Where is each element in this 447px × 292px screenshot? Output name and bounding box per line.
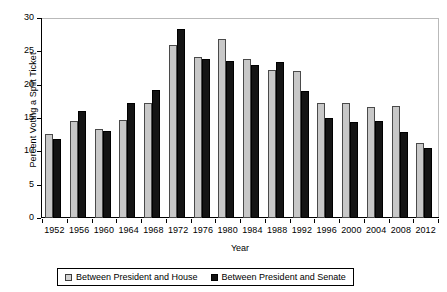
bar-2012-senate <box>424 148 432 218</box>
bar-group-2000 <box>339 18 364 218</box>
x-tick-mark <box>116 219 117 223</box>
bar-group-1980 <box>215 18 240 218</box>
x-tick-mark <box>413 219 414 223</box>
y-tick-mark <box>37 151 41 152</box>
bar-2004-senate <box>375 121 383 218</box>
bar-1956-senate <box>78 111 86 218</box>
bar-group-1964 <box>116 18 141 218</box>
x-tick-mark <box>67 219 68 223</box>
legend-item-senate: Between President and Senate <box>211 272 346 282</box>
x-tick-mark <box>240 219 241 223</box>
x-tick-mark <box>339 219 340 223</box>
bar-2004-house <box>367 107 375 218</box>
y-tick-mark <box>37 118 41 119</box>
x-axis-title: Year <box>41 243 439 253</box>
bar-1988-house <box>268 70 276 218</box>
bar-group-1992 <box>290 18 315 218</box>
y-tick-label: 0 <box>29 212 34 222</box>
bar-group-1976 <box>191 18 216 218</box>
x-tick-mark <box>92 219 93 223</box>
bar-1956-house <box>70 121 78 218</box>
bar-1992-house <box>293 71 301 218</box>
x-tick-mark <box>215 219 216 223</box>
bar-group-1972 <box>166 18 191 218</box>
bar-1980-senate <box>226 61 234 218</box>
y-tick-label: 10 <box>24 145 34 155</box>
x-tick-mark <box>290 219 291 223</box>
y-tick-mark <box>37 185 41 186</box>
legend-label: Between President and Senate <box>222 272 346 282</box>
bar-group-2012 <box>413 18 438 218</box>
bar-group-2008 <box>389 18 414 218</box>
y-tick-label: 15 <box>24 112 34 122</box>
x-tick-mark <box>42 219 43 223</box>
bars-layer <box>42 18 438 218</box>
bar-group-1968 <box>141 18 166 218</box>
bar-1964-house <box>119 120 127 218</box>
chart-legend: Between President and HouseBetween Presi… <box>57 268 354 286</box>
bar-2000-senate <box>350 122 358 218</box>
bar-1952-senate <box>53 139 61 218</box>
y-tick-mark <box>37 18 41 19</box>
x-tick-mark <box>389 219 390 223</box>
bar-group-1988 <box>265 18 290 218</box>
bar-1988-senate <box>276 62 284 218</box>
x-tick-mark <box>141 219 142 223</box>
bar-group-1952 <box>42 18 67 218</box>
y-tick-label: 20 <box>24 79 34 89</box>
x-tick-mark <box>314 219 315 223</box>
bar-1960-senate <box>103 131 111 218</box>
bar-1980-house <box>218 39 226 218</box>
legend-swatch-icon <box>65 274 72 281</box>
bar-1968-senate <box>152 90 160 218</box>
x-tick-mark <box>438 219 439 223</box>
bar-1996-senate <box>325 118 333 218</box>
legend-label: Between President and House <box>76 272 198 282</box>
y-tick-label: 30 <box>24 12 34 22</box>
bar-group-1956 <box>67 18 92 218</box>
legend-swatch-icon <box>211 274 218 281</box>
bar-1976-senate <box>202 59 210 218</box>
bar-1984-house <box>243 59 251 218</box>
bar-1996-house <box>317 103 325 218</box>
bar-2012-house <box>416 143 424 218</box>
bar-1992-senate <box>301 91 309 218</box>
bar-1972-house <box>169 45 177 218</box>
y-tick-label: 25 <box>24 45 34 55</box>
bar-1968-house <box>144 103 152 218</box>
x-axis-ticks: 1952195619601964196819721976198019841988… <box>42 219 438 243</box>
x-tick-label-2012: 2012 <box>411 225 441 235</box>
bar-group-1996 <box>314 18 339 218</box>
y-tick-mark <box>37 51 41 52</box>
bar-1972-senate <box>177 29 185 218</box>
bar-1964-senate <box>127 103 135 218</box>
bar-1976-house <box>194 57 202 218</box>
bar-1960-house <box>95 129 103 218</box>
bar-2000-house <box>342 103 350 218</box>
y-tick-label: 5 <box>29 179 34 189</box>
x-tick-mark <box>191 219 192 223</box>
bar-2008-senate <box>400 132 408 218</box>
bar-group-2004 <box>364 18 389 218</box>
bar-1984-senate <box>251 65 259 218</box>
split-ticket-bar-chart: Percent Voting a Split Ticket 0510152025… <box>0 0 447 292</box>
bar-1952-house <box>45 134 53 218</box>
y-tick-mark <box>37 218 41 219</box>
y-tick-mark <box>37 85 41 86</box>
y-axis-title: Percent Voting a Split Ticket <box>28 15 38 205</box>
x-tick-mark <box>265 219 266 223</box>
legend-item-house: Between President and House <box>65 272 198 282</box>
x-tick-mark <box>166 219 167 223</box>
bar-group-1960 <box>92 18 117 218</box>
bar-2008-house <box>392 106 400 218</box>
x-tick-mark <box>364 219 365 223</box>
bar-group-1984 <box>240 18 265 218</box>
